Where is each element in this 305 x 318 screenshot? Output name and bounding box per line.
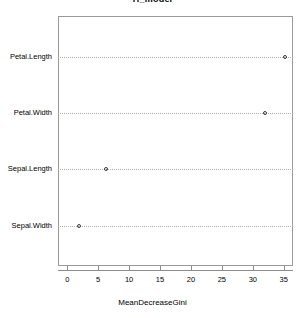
data-point xyxy=(77,224,81,228)
x-axis-tick xyxy=(253,266,254,271)
x-axis-title: MeanDecreaseGini xyxy=(0,298,305,307)
x-axis-tick-label: 15 xyxy=(156,276,164,284)
data-point xyxy=(263,111,267,115)
x-axis-tick-label: 0 xyxy=(65,276,69,284)
x-axis-tick-label: 10 xyxy=(125,276,133,284)
x-axis-tick xyxy=(222,266,223,271)
plot-panel xyxy=(58,16,293,266)
x-axis-line xyxy=(58,270,293,271)
x-axis-tick-label: 35 xyxy=(280,276,288,284)
x-axis-tick xyxy=(67,266,68,271)
x-axis-tick xyxy=(160,266,161,271)
x-axis-tick xyxy=(129,266,130,271)
gridline xyxy=(58,113,293,115)
x-axis-tick-label: 25 xyxy=(218,276,226,284)
category-label: Sepal.Length xyxy=(8,165,52,173)
x-axis-tick-label: 30 xyxy=(249,276,257,284)
x-axis-tick-label: 5 xyxy=(96,276,100,284)
category-label: Sepal.Width xyxy=(12,222,52,230)
x-axis-tick-label: 20 xyxy=(187,276,195,284)
category-label: Petal.Length xyxy=(10,53,52,61)
gridline xyxy=(58,57,293,59)
data-point xyxy=(283,55,287,59)
plot-title: rf_model xyxy=(0,0,305,4)
x-axis-tick xyxy=(284,266,285,271)
x-axis-tick xyxy=(98,266,99,271)
gridline xyxy=(58,169,293,171)
gridline xyxy=(58,226,293,228)
variable-importance-plot: rf_model Petal.LengthPetal.WidthSepal.Le… xyxy=(0,0,305,318)
x-axis-tick xyxy=(191,266,192,271)
category-label: Petal.Width xyxy=(14,109,52,117)
